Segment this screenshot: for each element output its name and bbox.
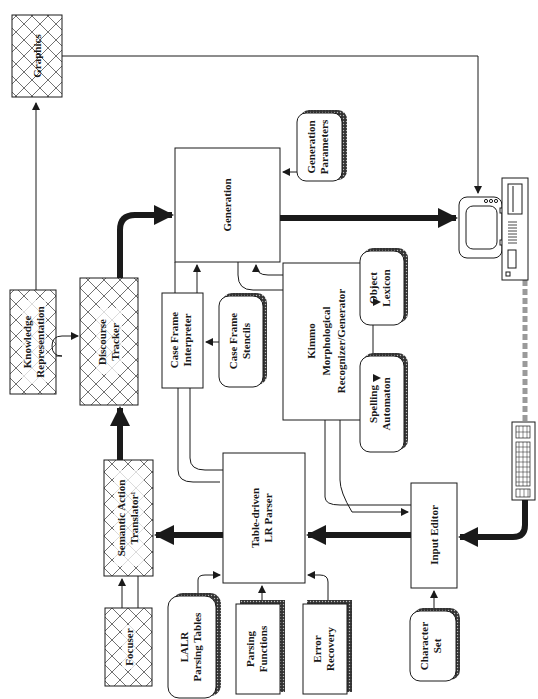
knowledge-label-1: Knowledge (21, 316, 33, 369)
lalr-label-2: Parsing Tables (191, 612, 203, 681)
node-spelling-automaton[interactable]: Spelling Automaton (360, 353, 408, 452)
edge-cfi-to-parser (178, 388, 220, 482)
node-character-set[interactable]: Character Set (410, 608, 460, 681)
computer-unit-icon[interactable] (502, 178, 528, 280)
edge-error-to-parser (308, 575, 328, 600)
spelling-label-2: Automaton (380, 377, 392, 430)
spelling-label-1: Spelling (367, 385, 379, 423)
edge-keyboard-to-input (460, 500, 525, 537)
functions-label-1: Parsing (244, 630, 256, 667)
node-semantic-action-translator[interactable]: Semantic Action Translator¹ (104, 460, 153, 576)
monitor-icon[interactable] (459, 197, 503, 258)
parser-label-2: LR Parser (262, 493, 274, 542)
keyboard-icon[interactable] (512, 422, 535, 500)
graphics-label: Graphics (31, 34, 43, 78)
charset-label-2: Set (431, 638, 443, 653)
node-lalr-tables[interactable]: LALR Parsing Tables (168, 593, 221, 698)
node-graphics[interactable]: Graphics (12, 15, 62, 97)
node-case-frame-stencils[interactable]: Case Frame Stencils (219, 293, 267, 387)
charset-label-1: Character (418, 622, 430, 670)
discourse-label-1: Discourse (96, 319, 108, 365)
node-error-recovery[interactable]: Error Recovery (303, 600, 352, 694)
parser-label-1: Table-driven (249, 488, 261, 548)
node-input-editor[interactable]: Input Editor (411, 483, 457, 588)
node-case-frame-interpreter[interactable]: Case Frame Interpreter (162, 293, 203, 388)
knowledge-label-2: Representation (34, 306, 46, 377)
error-label-2: Recovery (324, 627, 336, 671)
stencils-label-1: Case Frame (227, 313, 239, 370)
genparams-label-1: Generation (305, 120, 317, 173)
sat-label-1: Semantic Action (115, 480, 127, 557)
system-architecture-diagram: Graphics Knowledge Representation Discou… (0, 0, 538, 699)
node-generation-parameters[interactable]: Generation Parameters (297, 110, 347, 181)
genparams-label-2: Parameters (318, 119, 330, 174)
error-label-1: Error (311, 635, 323, 662)
focuser-label: Focuser (123, 628, 135, 665)
node-object-lexicon[interactable]: Object Lexicon (360, 248, 408, 325)
node-focuser[interactable]: Focuser (105, 608, 152, 686)
kimmo-label-1: Kimmo (305, 323, 317, 359)
generation-label: Generation (221, 178, 233, 231)
edge-parser-to-cfi (190, 388, 223, 470)
edge-lalr-to-parser (198, 575, 220, 595)
sat-label-2: Translator¹ (128, 491, 140, 544)
discourse-label-2: Tracker (109, 323, 121, 361)
cfi-label-2: Interpreter (181, 313, 193, 366)
node-knowledge-representation[interactable]: Knowledge Representation (10, 290, 56, 394)
functions-label-2: Functions (257, 625, 269, 672)
lexicon-label-2: Lexicon (380, 269, 392, 306)
node-lr-parser[interactable]: Table-driven LR Parser (223, 453, 305, 583)
edge-discourse-to-generation (120, 215, 172, 278)
lalr-label-1: LALR (178, 631, 190, 663)
node-discourse-tracker[interactable]: Discourse Tracker (80, 278, 138, 405)
kimmo-label-2: Morphological (320, 306, 332, 375)
input-editor-label: Input Editor (428, 505, 440, 565)
edge-kimmo-to-generation (238, 262, 283, 290)
node-parsing-functions[interactable]: Parsing Functions (236, 600, 285, 694)
node-generation[interactable]: Generation (175, 148, 280, 262)
edge-kimmo-to-generation-return (256, 265, 283, 275)
kimmo-label-3: Recognizer/Generator (335, 289, 347, 394)
cfi-label-1: Case Frame (168, 312, 180, 369)
stencils-label-2: Stencils (240, 322, 252, 359)
